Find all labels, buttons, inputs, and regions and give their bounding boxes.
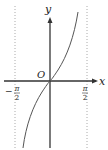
y-axis-label: y [44,3,52,16]
left-tick-den: 2 [15,94,19,102]
origin-label: O [37,69,45,80]
right-tick-num: π [82,85,88,93]
left-tick-num: π [14,85,20,93]
x-axis-label: x [99,75,106,88]
tangent-graph: y x O − π 2 π 2 [0,0,108,150]
left-tick-sign: − [5,86,13,96]
right-tick-den: 2 [83,94,87,102]
x-axis-arrow-icon [92,79,98,84]
y-axis-arrow-icon [48,17,53,23]
